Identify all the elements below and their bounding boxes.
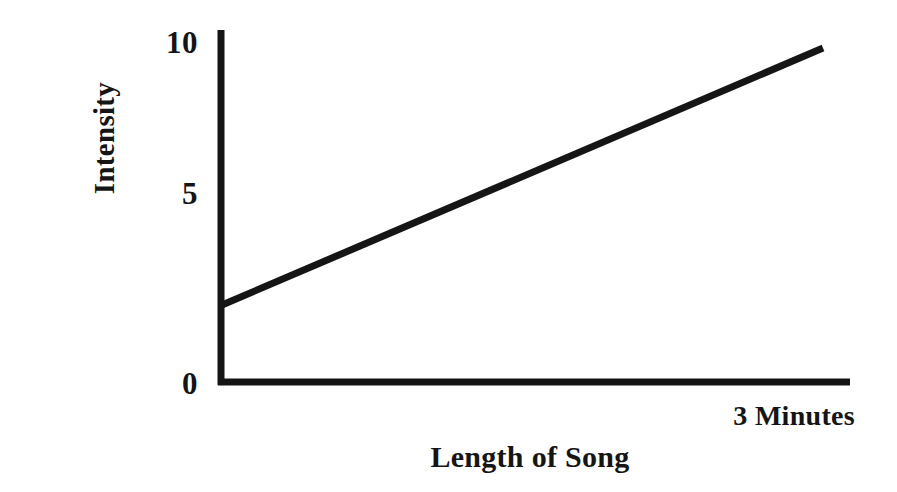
chart-figure: 10 5 0 Intensity Length of Song 3 Minute…	[0, 0, 897, 492]
x-axis-end-annotation: 3 Minutes	[600, 400, 855, 432]
data-series-line	[222, 48, 823, 305]
plot-area: 10 5 0 Intensity Length of Song 3 Minute…	[0, 0, 897, 492]
y-tick-label: 0	[100, 368, 198, 399]
x-axis-title: Length of Song	[260, 440, 800, 474]
y-axis-title: Intensity	[88, 48, 128, 228]
